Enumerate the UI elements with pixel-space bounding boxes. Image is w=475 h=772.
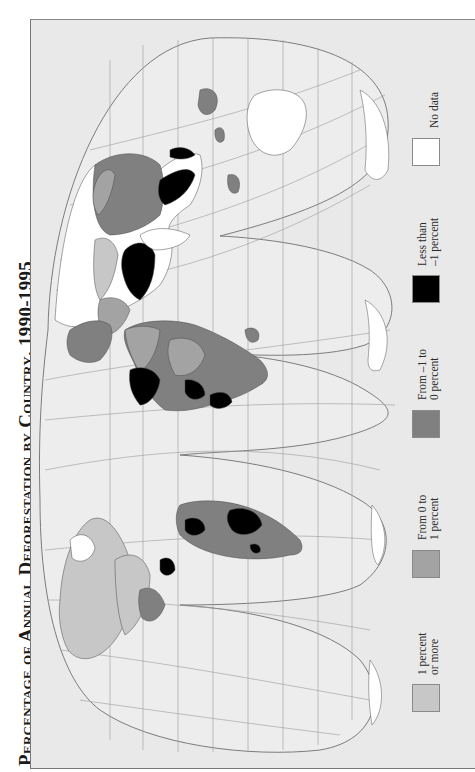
- legend-label-line2: 0 percent: [428, 349, 440, 400]
- legend-label-line1: No data: [428, 92, 440, 128]
- philippines: [215, 128, 225, 143]
- legend-swatch: [412, 138, 440, 166]
- legend-label-line1: From 0 to: [416, 495, 428, 540]
- legend-label-line1: From –1 to: [416, 349, 428, 400]
- japan: [198, 89, 217, 115]
- legend-swatch: [412, 410, 440, 438]
- legend-swatch: [412, 684, 440, 712]
- legend-swatch: [412, 550, 440, 578]
- legend-label-line2: or more: [428, 633, 440, 675]
- legend-label-line2: –1 percent: [428, 218, 440, 266]
- legend-label-line1: 1 percent: [416, 633, 428, 675]
- legend-label-line2: 1 percent: [428, 495, 440, 540]
- legend-swatch: [412, 275, 440, 303]
- legend-label-line1: Less than: [416, 218, 428, 266]
